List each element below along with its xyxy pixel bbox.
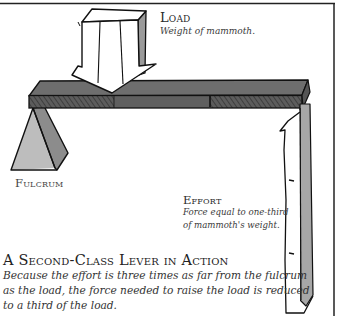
load-label: Load [160, 10, 191, 25]
lever-diagram: Load Weight of mammoth. Fulcrum Effort F… [0, 0, 338, 316]
caption-title: A Second-Class Lever in Action [3, 252, 229, 268]
effort-label: Effort [183, 193, 221, 207]
caption-body-line: Because the effort is three times as far… [3, 269, 307, 281]
load-description: Weight of mammoth. [160, 26, 255, 36]
caption-body-line: as the load, the force needed to raise t… [3, 284, 310, 296]
fulcrum-shape [11, 106, 68, 170]
effort-description-line: of mammoth's weight. [183, 220, 280, 230]
effort-description-line: Force equal to one-third [183, 207, 289, 217]
caption-body-line: to a third of the load. [3, 299, 117, 311]
fulcrum-label: Fulcrum [15, 176, 64, 190]
lever-beam [29, 80, 310, 108]
